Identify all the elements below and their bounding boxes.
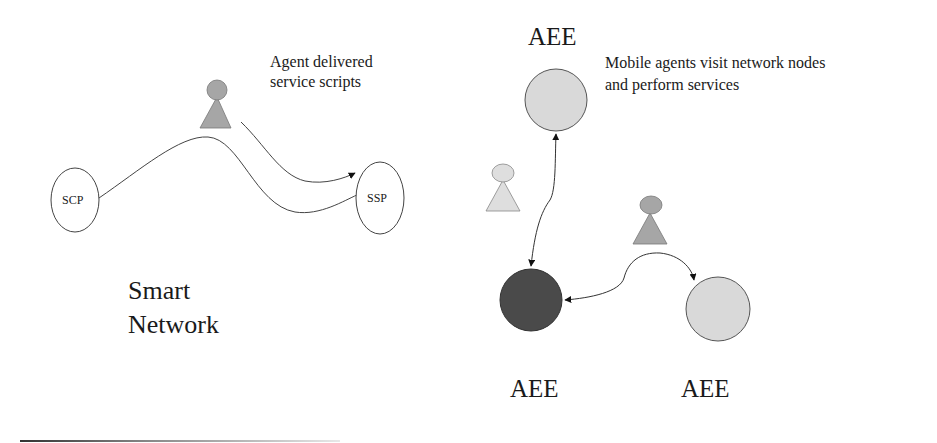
- smart-network-title-line1: Smart: [128, 274, 190, 308]
- agent-light-icon: [486, 164, 520, 211]
- scp-ssp-link: [99, 137, 357, 213]
- agent-gray-icon: [633, 196, 667, 244]
- aee-bottom-right-label: AEE: [681, 376, 730, 401]
- right-caption-line2: and perform services: [605, 75, 739, 94]
- aee-bottom-right-node: [686, 277, 750, 341]
- agent-delivery-arrow: [241, 122, 355, 182]
- right-caption-line1: Mobile agents visit network nodes: [605, 53, 825, 72]
- aee-top-node: [525, 69, 587, 131]
- left-caption-line1: Agent delivered: [270, 52, 373, 71]
- aee-bottom-left-node: [500, 269, 562, 331]
- aee-bottom-link: [565, 253, 694, 300]
- bottom-divider: [20, 440, 340, 442]
- left-caption-line2: service scripts: [270, 72, 361, 91]
- scp-label: SCP: [62, 194, 83, 206]
- ssp-label: SSP: [367, 192, 387, 204]
- smart-network-title-line2: Network: [128, 308, 219, 342]
- aee-vertical-link: [531, 134, 556, 266]
- aee-top-label: AEE: [528, 24, 577, 49]
- agent-icon: [200, 80, 231, 128]
- aee-bottom-left-label: AEE: [510, 376, 559, 401]
